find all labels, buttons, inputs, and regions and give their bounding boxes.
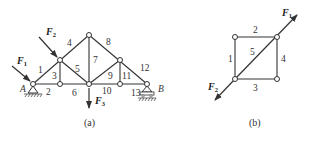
member-label: 10: [102, 86, 112, 96]
force-F2-arrow-icon: [39, 37, 57, 57]
caption-a: (a): [84, 117, 95, 129]
caption-b: (b): [249, 117, 261, 129]
node: [118, 82, 123, 87]
force-label-F3: F3: [94, 95, 106, 107]
member-label: 9: [108, 71, 113, 81]
member-label: 5: [250, 47, 255, 57]
member-label: 4: [281, 54, 286, 64]
support-label-A: A: [19, 84, 26, 94]
member-label: 3: [52, 71, 57, 81]
node: [233, 35, 238, 40]
member-label: 6: [72, 88, 77, 98]
truss-b: 1 2 3 4 5 F1 F2 (b): [207, 7, 297, 129]
force-label-F2: F2: [45, 26, 56, 38]
member-label: 8: [106, 37, 111, 47]
node: [275, 35, 280, 40]
member-label: 1: [38, 65, 43, 75]
member-label: 2: [46, 87, 51, 97]
node: [58, 58, 63, 63]
member-label: 1: [228, 54, 233, 64]
node: [233, 77, 238, 82]
force-label-F2: F2: [207, 81, 218, 93]
member-label: 3: [253, 83, 258, 93]
force-label-F1: F1: [16, 55, 27, 67]
member-label: 13: [131, 88, 141, 98]
support-label-B: B: [158, 84, 164, 94]
member-label: 4: [67, 38, 72, 48]
member-label: 5: [75, 64, 80, 74]
node: [118, 58, 123, 63]
force-F2-arrow-icon: [215, 79, 235, 100]
roller-support-icon: [138, 86, 156, 101]
node: [275, 77, 280, 82]
force-F1-arrow-icon: [12, 66, 30, 81]
member-label: 12: [140, 63, 150, 73]
truss-figures: F1 F2 F3 A B 1 2 3 4 5 6 7 8 9 10 11 12 …: [0, 0, 311, 143]
node-apex: [87, 33, 92, 38]
node: [58, 82, 63, 87]
node: [87, 82, 92, 87]
pin-support-icon: [24, 86, 42, 97]
member-label: 11: [122, 71, 131, 81]
truss-a: F1 F2 F3 A B 1 2 3 4 5 6 7 8 9 10 11 12 …: [12, 26, 164, 129]
member-label: 7: [93, 55, 98, 65]
force-F1-arrow-icon: [235, 15, 297, 79]
force-label-F1: F1: [281, 7, 292, 19]
member-label: 2: [253, 25, 258, 35]
